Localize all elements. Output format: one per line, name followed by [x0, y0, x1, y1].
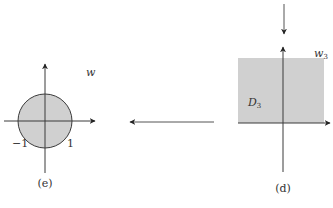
upper-half-plane	[238, 58, 324, 123]
caption-d: (d)	[275, 183, 291, 194]
d-plane-label-sub: 3	[323, 53, 327, 61]
d-region-label-base: D	[248, 96, 257, 109]
panel-d	[238, 4, 330, 172]
panel-e	[4, 64, 95, 173]
e-plane-label: w	[86, 67, 95, 78]
d-region-label-sub: 3	[257, 102, 261, 110]
d-region-label: D3	[248, 97, 261, 110]
caption-e: (e)	[37, 178, 52, 189]
d-plane-label: w3	[314, 48, 328, 61]
e-tick-one: 1	[67, 138, 74, 149]
d-plane-label-base: w	[314, 47, 323, 60]
e-tick-neg-one: −1	[12, 138, 28, 149]
